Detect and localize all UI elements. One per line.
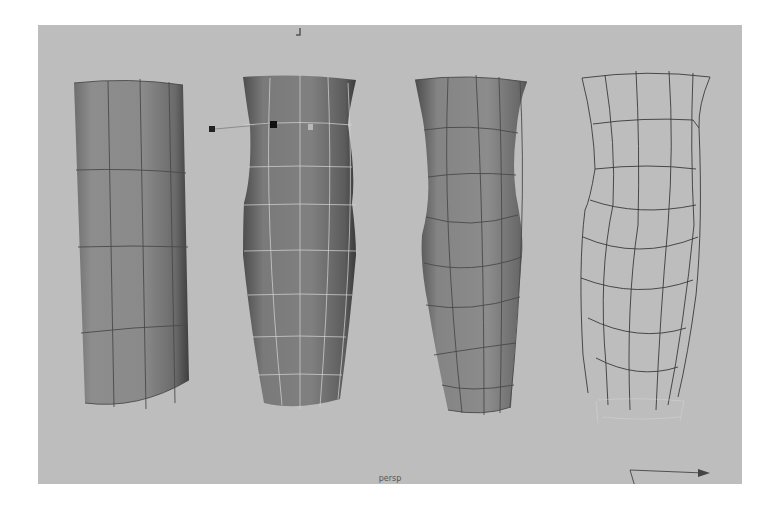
lattice-point-handle-b[interactable] bbox=[270, 121, 277, 128]
lattice-cage[interactable] bbox=[581, 71, 710, 410]
lattice-point-handle-c[interactable] bbox=[308, 124, 313, 130]
camera-label: persp bbox=[38, 474, 742, 483]
view-axis-marker bbox=[296, 28, 300, 35]
cylinder-deformed-result[interactable] bbox=[415, 75, 527, 415]
lattice-point-handle-a[interactable] bbox=[209, 126, 215, 132]
cylinder-original[interactable] bbox=[74, 79, 189, 409]
3d-viewport[interactable]: persp bbox=[38, 25, 742, 484]
lattice-base-ghost bbox=[596, 399, 684, 423]
